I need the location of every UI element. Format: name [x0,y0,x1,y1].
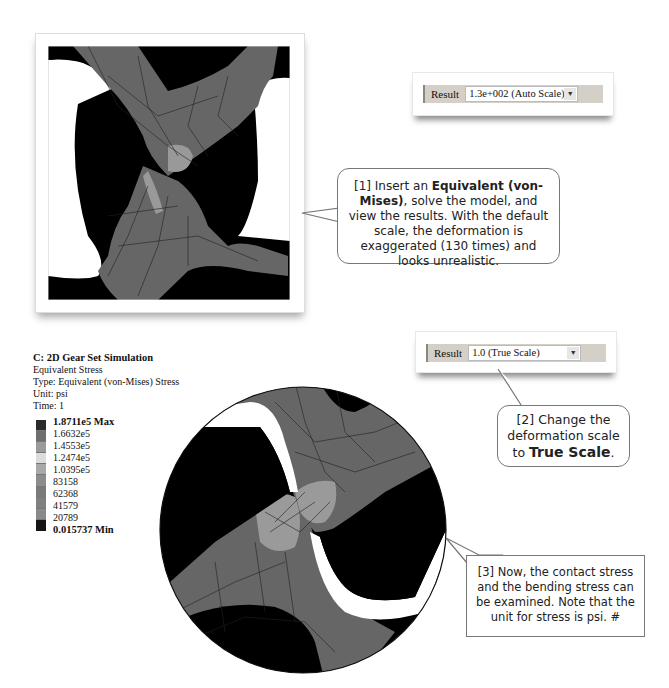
legend-value: 1.2474e5 [53,452,90,463]
callout2-text-b: . [610,445,614,460]
chevron-down-icon[interactable]: ▼ [567,347,579,359]
auto-scale-result-image [35,33,305,313]
legend-value: 41579 [53,500,78,511]
legend-swatch [36,464,46,475]
legend-max: 1.8711e5 Max [53,416,114,427]
dropdown-value: 1.3e+002 (Auto Scale) [469,88,564,99]
legend-line: Equivalent Stress [33,364,179,376]
legend-value: 83158 [53,476,78,487]
legend-swatch [36,475,46,486]
deformation-scale-dropdown[interactable]: 1.0 (True Scale) ▼ [468,345,581,361]
callout2-bold: True Scale [529,444,610,460]
legend-value: 1.0395e5 [53,464,90,475]
legend-swatch [36,487,46,498]
deformed-mesh-plot [48,46,290,300]
callout-step-3: [3] Now, the contact stress and the bend… [466,555,645,637]
legend-swatch [36,453,46,464]
legend-swatch [36,498,46,509]
result-toolbar: Result 1.3e+002 (Auto Scale) ▼ [423,85,603,103]
legend-swatch [36,420,46,431]
legend-min: 0.015737 Min [53,524,114,535]
mesh-graphic [48,46,290,300]
legend-value: 20789 [53,512,78,523]
callout-step-1: [1] Insert an Equivalent (von-Mises), so… [337,168,560,264]
legend-color-bar [36,420,46,531]
chevron-down-icon[interactable]: ▼ [564,88,576,100]
callout-step-2: [2] Change the deformation scale to True… [497,405,630,467]
callout3-text: [3] Now, the contact stress and the bend… [476,565,635,624]
legend-swatch [36,520,46,531]
legend-value: 62368 [53,488,78,499]
legend-title: C: 2D Gear Set Simulation [33,352,179,364]
legend-value: 1.4553e5 [53,440,90,451]
legend-value: 1.6632e5 [53,428,90,439]
result-scale-panel-true: Result 1.0 (True Scale) ▼ [415,331,617,373]
legend-swatch [36,431,46,442]
result-label: Result [428,347,468,359]
result-label: Result [425,88,465,100]
callout1-text-a: [1] Insert an [354,179,432,193]
deformation-scale-dropdown[interactable]: 1.3e+002 (Auto Scale) ▼ [465,86,578,102]
result-toolbar: Result 1.0 (True Scale) ▼ [426,344,606,362]
result-scale-panel-auto: Result 1.3e+002 (Auto Scale) ▼ [412,72,614,116]
dropdown-value: 1.0 (True Scale) [472,347,540,358]
legend-swatch [36,442,46,453]
legend-swatch [36,509,46,520]
true-scale-mesh-plot [155,382,455,682]
